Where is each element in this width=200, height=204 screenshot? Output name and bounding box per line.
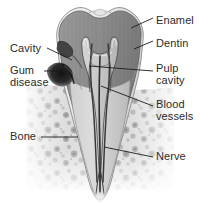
label-dentin: Dentin [156, 38, 188, 50]
label-nerve: Nerve [156, 151, 186, 163]
label-gum-disease-line1: Gum [10, 65, 34, 77]
label-enamel: Enamel [156, 15, 194, 27]
label-blood-vessels-line2: vessels [156, 111, 193, 123]
label-pulp-cavity-line2: cavity [156, 75, 185, 87]
label-blood-vessels-line1: Blood [156, 99, 185, 111]
cusp-groove [95, 9, 106, 15]
root-bottom-fade [56, 166, 146, 204]
label-bone: Bone [10, 131, 36, 143]
label-cavity: Cavity [10, 43, 41, 55]
label-gum-disease-line2: disease [10, 77, 49, 89]
tooth-anatomy-figure: Enamel Dentin Pulp cavity Blood vessels … [0, 0, 200, 204]
label-pulp-cavity-line1: Pulp [156, 63, 178, 75]
